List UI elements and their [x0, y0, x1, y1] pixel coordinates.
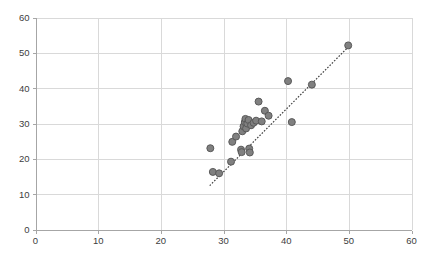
- gridlines: [36, 18, 413, 230]
- x-axis-tick-label: 40: [281, 235, 292, 246]
- scatter-point: [308, 81, 315, 88]
- y-axis-tick-labels: 0102030405060: [19, 12, 30, 235]
- scatter-point: [345, 42, 352, 49]
- y-axis-tick-label: 30: [19, 118, 30, 129]
- y-axis-tick-label: 40: [19, 83, 30, 94]
- y-axis-tick-label: 60: [19, 12, 30, 23]
- axes: [33, 18, 413, 234]
- scatter-point: [246, 149, 253, 156]
- x-axis-tick-label: 30: [218, 235, 229, 246]
- scatter-chart: 0102030405060 0102030405060: [0, 0, 426, 265]
- y-axis-tick-label: 50: [19, 47, 30, 58]
- scatter-point: [255, 98, 262, 105]
- scatter-point: [207, 145, 214, 152]
- y-axis-tick-label: 0: [24, 224, 29, 235]
- x-axis-tick-labels: 0102030405060: [33, 235, 417, 246]
- scatter-point: [216, 170, 223, 177]
- scatter-point: [258, 118, 265, 125]
- scatter-point: [265, 112, 272, 119]
- x-axis-tick-label: 10: [93, 235, 104, 246]
- y-axis-tick-label: 20: [19, 153, 30, 164]
- scatter-point: [228, 158, 235, 165]
- x-axis-tick-label: 60: [406, 235, 417, 246]
- data-points: [207, 42, 352, 177]
- x-axis-tick-label: 20: [156, 235, 167, 246]
- x-axis-tick-label: 0: [33, 235, 38, 246]
- scatter-point: [288, 119, 295, 126]
- chart-canvas: 0102030405060 0102030405060: [0, 0, 426, 265]
- scatter-point: [233, 133, 240, 140]
- y-axis-tick-label: 10: [19, 189, 30, 200]
- scatter-point: [238, 149, 245, 156]
- x-axis-tick-label: 50: [344, 235, 355, 246]
- scatter-point: [285, 78, 292, 85]
